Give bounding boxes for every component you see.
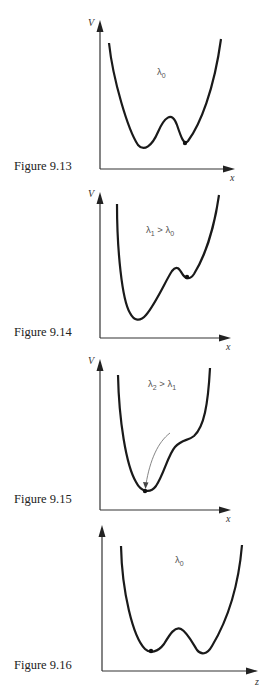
figure-caption: Figure 9.16	[14, 658, 72, 673]
figure-9-15: V x λ2 > λ1 Figure 9.15	[0, 350, 280, 522]
parameter-label: λ0	[157, 66, 166, 79]
parameter-label: λ2 > λ1	[148, 378, 176, 391]
ball-marker	[143, 489, 147, 493]
y-axis-label: V	[88, 188, 94, 199]
potential-curve	[117, 195, 219, 320]
y-axis-label: V	[88, 355, 94, 366]
x-axis-arrow-icon	[246, 668, 258, 675]
rolling-arrow-head-icon	[143, 482, 149, 489]
axes	[102, 532, 251, 671]
figure-caption: Figure 9.14	[14, 325, 72, 340]
ball-marker	[149, 649, 153, 653]
potential-curve	[109, 39, 221, 148]
axes	[100, 199, 224, 338]
y-axis-arrow-icon	[97, 359, 104, 371]
figure-9-13-plot	[0, 0, 280, 180]
y-axis-arrow-icon	[99, 525, 106, 537]
figure-caption: Figure 9.13	[14, 159, 72, 174]
figure-9-14: V x λ1 > λ0 Figure 9.14	[0, 180, 280, 350]
figure-caption: Figure 9.15	[14, 492, 72, 507]
y-axis-arrow-icon	[97, 192, 104, 204]
rolling-arrow	[146, 433, 170, 484]
y-axis-label: V	[88, 17, 94, 28]
parameter-label: λ0	[175, 554, 184, 567]
figure-9-13: V x λ0 Figure 9.13	[0, 0, 280, 180]
ball-marker	[185, 275, 189, 279]
y-axis-arrow-icon	[97, 20, 104, 32]
parameter-label: λ1 > λ0	[146, 224, 174, 237]
ball-marker	[183, 141, 187, 145]
figure-9-16: z λ0 Figure 9.16	[0, 522, 280, 696]
x-axis-label: z	[255, 676, 259, 687]
